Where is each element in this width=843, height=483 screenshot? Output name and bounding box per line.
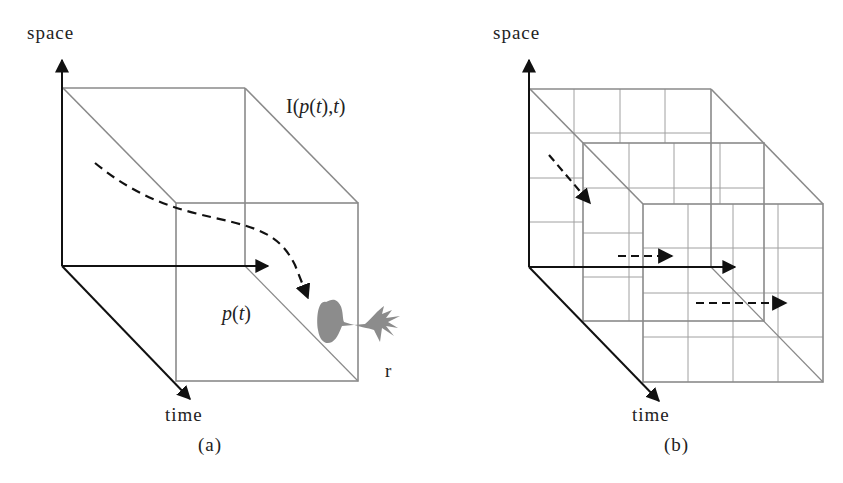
space-axis-label-a: space <box>27 22 74 44</box>
time-axis-label-a: time <box>165 404 203 426</box>
space-axis-label-b: space <box>493 22 540 44</box>
caption-a: (a) <box>198 434 222 456</box>
time-axis-arrow <box>62 266 190 399</box>
axes-a <box>62 60 268 399</box>
time-axis-label-b: time <box>632 404 670 426</box>
caption-b: (b) <box>664 434 689 456</box>
diagram-canvas <box>0 0 843 483</box>
grid-front <box>643 204 823 382</box>
trajectory-dashed-arrow <box>95 163 308 298</box>
time-axis-arrow <box>529 267 659 401</box>
path-label: p(t) <box>222 302 251 325</box>
panel-b <box>529 60 823 401</box>
cube-a <box>63 88 358 381</box>
axes-b <box>529 60 735 401</box>
dashed-arrow-diagonal <box>549 155 590 203</box>
r-label: r <box>385 360 392 382</box>
panel-a <box>62 60 400 399</box>
volume-label: I(p(t),t) <box>286 95 345 118</box>
